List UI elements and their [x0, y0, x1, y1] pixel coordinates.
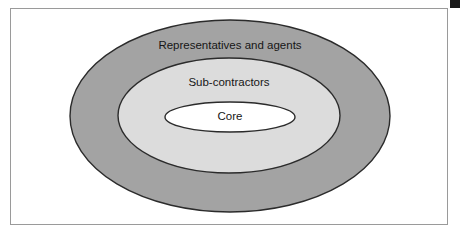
outer-ring-label: Representatives and agents	[158, 39, 301, 51]
concentric-ellipse-diagram: Representatives and agents Sub-contracto…	[0, 0, 461, 237]
inner-ring-label: Core	[218, 110, 243, 122]
black-square-marker-icon	[450, 0, 460, 8]
middle-ring-label: Sub-contractors	[188, 76, 269, 88]
